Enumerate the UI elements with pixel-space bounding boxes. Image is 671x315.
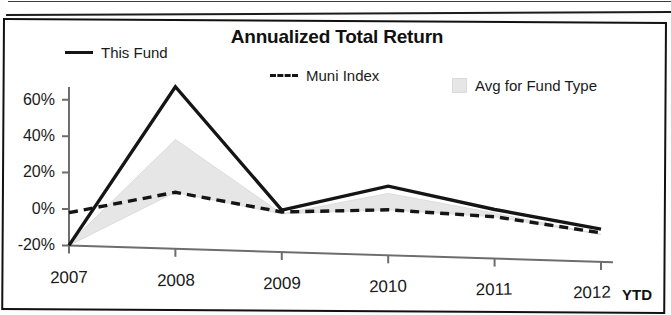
y-tick-label-60: 60% <box>1 91 55 109</box>
y-tick-label-40: 40% <box>1 127 55 145</box>
x-tick-label-2012: 2012 <box>573 283 611 304</box>
page-top-artifact-edge <box>8 1 671 2</box>
page-top-artifact-strip <box>6 0 671 16</box>
x-tick-label-2010: 2010 <box>369 277 407 298</box>
y-tick-label-20: 20% <box>1 163 55 181</box>
avg-for-fund-type-area <box>69 140 601 246</box>
chart-plot-area <box>5 20 669 312</box>
y-tick-label-neg20: -20% <box>1 236 55 254</box>
x-axis-ytd-label: YTD <box>622 286 652 303</box>
scanned-page-background: Annualized Total Return This Fund Muni I… <box>0 0 671 315</box>
x-tick-label-2011: 2011 <box>476 280 513 301</box>
chart-inner-container: Annualized Total Return This Fund Muni I… <box>5 20 665 308</box>
chart-frame-border: Annualized Total Return This Fund Muni I… <box>1 18 667 314</box>
x-tick-label-2007: 2007 <box>50 268 88 289</box>
x-tick-label-2009: 2009 <box>263 274 301 295</box>
y-tick-label-0: 0% <box>1 200 55 218</box>
x-tick-label-2008: 2008 <box>157 271 195 292</box>
